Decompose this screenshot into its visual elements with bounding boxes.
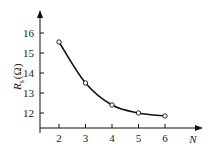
data-point-marker [83,81,87,85]
data-point-marker [57,40,61,44]
y-tick-label: 15 [23,47,35,59]
axis-labels: NRs(Ω) [11,63,197,145]
x-tick-label: 5 [136,132,142,144]
x-tick-label: 3 [83,132,89,144]
y-tick-label: 13 [23,87,35,99]
x-tick-label: 2 [56,132,62,144]
y-tick-label: 16 [23,27,35,39]
line-chart: 121314151623456 NRs(Ω) [0,0,212,153]
data-point-marker [136,111,140,115]
x-tick-label: 6 [162,132,168,144]
data-series [57,40,167,118]
data-point-marker [163,114,167,118]
chart-container: 121314151623456 NRs(Ω) [0,0,212,153]
axes: 121314151623456 [23,12,201,144]
x-tick-label: 4 [109,132,115,144]
x-axis-label: N [188,133,197,145]
y-tick-label: 12 [23,107,34,119]
data-point-marker [110,103,114,107]
y-tick-label: 14 [23,67,35,79]
